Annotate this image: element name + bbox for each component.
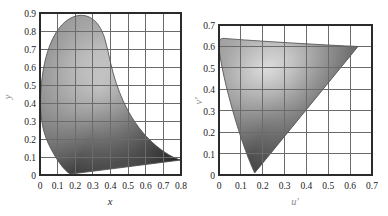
- ytick-label: 0.5: [24, 81, 36, 91]
- ytick-label: 0.6: [24, 63, 36, 73]
- ytick-label: 0.2: [203, 128, 215, 138]
- ytick-label: 0.3: [203, 107, 215, 117]
- ytick-label: 0.7: [24, 45, 36, 55]
- x-axis-title: x: [107, 196, 113, 207]
- cie-1931-xy-panel: 0.9 0.8 0.7 0.6 0.5 0.4 0.3 0.2 0.1 0 0 …: [0, 0, 194, 216]
- xtick-label: 0.1: [52, 181, 64, 191]
- ytick-label: 0.2: [24, 135, 36, 145]
- xtick-label: 0.6: [344, 181, 356, 191]
- ytick-label: 0.4: [24, 99, 36, 109]
- ytick-label: 0.8: [24, 27, 36, 37]
- ytick-label: 0.9: [24, 9, 36, 19]
- cie-1976-uv-panel: 0.7 0.6 0.5 0.4 0.3 0.2 0.1 0 0 0.1 0.2 …: [194, 0, 388, 216]
- xtick-label: 0.7: [366, 181, 378, 191]
- cie-1976-uv-plot: 0.7 0.6 0.5 0.4 0.3 0.2 0.1 0 0 0.1 0.2 …: [194, 0, 388, 216]
- y-axis-title: v': [194, 97, 204, 105]
- xtick-label: 0.4: [105, 181, 117, 191]
- chromaticity-diagram-figure: 0.9 0.8 0.7 0.6 0.5 0.4 0.3 0.2 0.1 0 0 …: [0, 0, 388, 216]
- ytick-label: 0.5: [203, 64, 215, 74]
- ytick-label: 0: [210, 171, 215, 181]
- ytick-label: 0.6: [203, 42, 215, 52]
- xtick-label: 0: [217, 181, 222, 191]
- x-axis-title: u': [291, 196, 299, 207]
- ytick-label: 0.4: [203, 85, 215, 95]
- xtick-label: 0.3: [87, 181, 99, 191]
- ytick-label: 0.1: [203, 150, 215, 160]
- xtick-label: 0.1: [235, 181, 247, 191]
- xtick-label: 0.7: [157, 181, 169, 191]
- xtick-label: 0.3: [279, 181, 291, 191]
- xtick-label: 0.4: [300, 181, 312, 191]
- xtick-label: 0.5: [322, 181, 334, 191]
- xtick-label: 0.2: [257, 181, 269, 191]
- ytick-label: 0.1: [24, 153, 36, 163]
- ytick-label: 0.7: [203, 21, 215, 31]
- xtick-label: 0.6: [140, 181, 152, 191]
- xtick-label: 0.5: [122, 181, 134, 191]
- ytick-label: 0.3: [24, 117, 36, 127]
- cie-1931-xy-plot: 0.9 0.8 0.7 0.6 0.5 0.4 0.3 0.2 0.1 0 0 …: [0, 0, 194, 216]
- xtick-label: 0.2: [69, 181, 81, 191]
- y-axis-title: y: [2, 94, 13, 100]
- ytick-label: 0: [31, 171, 36, 181]
- xtick-label: 0.8: [175, 181, 187, 191]
- xtick-label: 0: [38, 181, 43, 191]
